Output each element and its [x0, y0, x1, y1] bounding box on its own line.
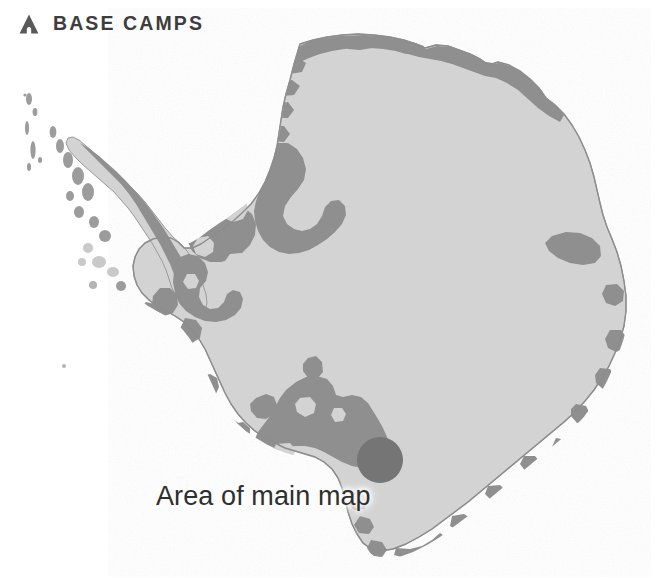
map-header-title: BASE CAMPS	[53, 14, 204, 34]
peninsula-island	[27, 163, 31, 171]
rock-outcrop	[450, 514, 472, 531]
rock-outcrop	[551, 438, 570, 456]
peninsula-island	[63, 152, 73, 168]
peninsula-island	[89, 281, 97, 289]
rock-outcrop	[264, 466, 286, 482]
peninsula-island	[99, 230, 111, 242]
peninsula-island	[62, 364, 66, 368]
rock-outcrop	[520, 456, 541, 472]
peninsula-island	[74, 206, 84, 218]
peninsula-island	[107, 267, 119, 277]
peninsula-island	[66, 191, 74, 201]
peninsula-island	[56, 139, 64, 153]
transantarctic-rock-arm	[227, 422, 250, 444]
rock-outcrop	[595, 368, 615, 389]
rock-outcrop	[396, 42, 424, 54]
peninsula-island	[50, 126, 57, 138]
rock-outcrop	[233, 452, 256, 469]
peninsula-island	[92, 256, 106, 268]
peninsula-island	[78, 258, 86, 266]
peninsula-island	[30, 141, 35, 159]
peninsula-island	[116, 281, 126, 291]
tent-icon	[18, 13, 40, 35]
map-header: BASE CAMPS	[18, 13, 204, 35]
antarctic-peninsula	[23, 93, 207, 368]
peninsula-island	[38, 157, 42, 163]
peninsula-island	[72, 167, 84, 185]
peninsula-island	[89, 216, 99, 228]
weddell-rock-finger	[157, 320, 180, 345]
peninsula-island	[26, 93, 32, 105]
peninsula-island	[33, 108, 38, 116]
peninsula-island	[83, 243, 93, 253]
area-of-main-map-caption: Area of main map	[156, 481, 371, 512]
peninsula-island	[25, 121, 29, 135]
rock-outcrop	[485, 485, 507, 501]
peninsula-island	[23, 93, 26, 96]
area-of-main-map-marker[interactable]	[357, 437, 403, 483]
peninsula-island	[82, 183, 94, 201]
antarctica-locator-map: BASE CAMPS Area of main map	[0, 0, 660, 578]
